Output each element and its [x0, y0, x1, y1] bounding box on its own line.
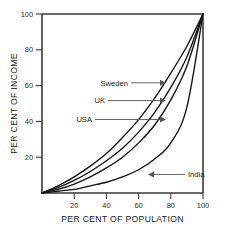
x-tick-label-80: 80: [167, 201, 175, 210]
x-tick-label-20: 20: [70, 201, 78, 210]
y-tick-label-20: 20: [25, 153, 33, 162]
annotation-label-usa: USA: [76, 115, 93, 124]
y-axis-title: PER CENT OF INCOME: [9, 53, 19, 154]
y-tick-label-80: 80: [25, 45, 33, 54]
annotation-label-india: India: [188, 170, 205, 179]
chart-svg: 100 80 60 40 20 20 40 60 80 100 PER CENT…: [0, 0, 234, 234]
lorenz-curve-chart: 100 80 60 40 20 20 40 60 80 100 PER CENT…: [0, 0, 234, 234]
y-tick-label-100: 100: [21, 10, 33, 19]
annotation-label-sweden: Sweden: [101, 79, 128, 88]
annotation-label-uk: UK: [94, 96, 105, 105]
y-tick-label-60: 60: [25, 81, 33, 90]
x-tick-label-60: 60: [134, 201, 142, 210]
chart-background: [0, 0, 234, 234]
x-tick-label-100: 100: [197, 201, 209, 210]
x-axis-title: PER CENT OF POPULATION: [61, 214, 183, 224]
y-tick-label-40: 40: [25, 117, 33, 126]
x-tick-label-40: 40: [102, 201, 110, 210]
